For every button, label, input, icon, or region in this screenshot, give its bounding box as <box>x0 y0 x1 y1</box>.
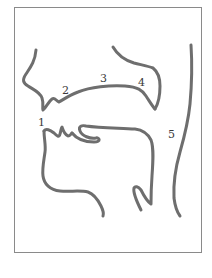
vocal-tract-diagram: 1 2 3 4 5 <box>0 0 212 278</box>
label-2: 2 <box>62 84 69 97</box>
label-1: 1 <box>38 116 45 129</box>
label-5: 5 <box>168 128 175 141</box>
label-4: 4 <box>138 76 145 89</box>
label-3: 3 <box>100 72 107 85</box>
